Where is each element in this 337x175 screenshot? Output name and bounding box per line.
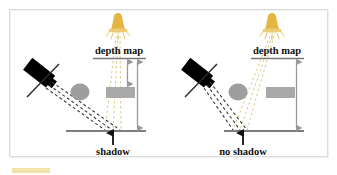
highlight-bar [12,168,50,173]
depth-map-label-right: depth map [253,45,301,56]
caption-label-right: no shadow [219,146,267,157]
shadow-vs-noshadow-diagram: depth map [0,0,337,175]
caption-label-left: shadow [96,146,130,157]
box-object-left [106,87,135,98]
figure-container: depth map [0,0,337,175]
box-object-right [266,87,295,98]
sphere-object-right [229,84,248,101]
sphere-object-left [71,84,90,101]
depth-map-label-left: depth map [95,45,143,56]
